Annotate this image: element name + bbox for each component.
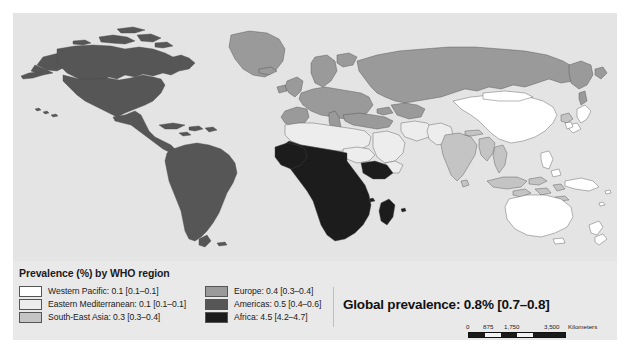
swatch-western-pacific — [19, 286, 42, 297]
scale-tick-875: 875 — [483, 323, 493, 330]
swatch-europe — [205, 286, 228, 297]
scale-segment-4 — [517, 333, 533, 337]
scale-tick-3500: 3,500 — [544, 323, 559, 330]
swatch-south-east-asia — [19, 312, 42, 323]
figure-root: Prevalence (%) by WHO region Western Pac… — [0, 0, 629, 352]
legend-divider — [333, 287, 334, 327]
scale-units-label: Kilometers — [568, 323, 597, 330]
scale-segment-3 — [501, 333, 517, 337]
legend-column-right: Europe: 0.4 [0.3–0.4] Americas: 0.5 [0.4… — [205, 285, 321, 324]
scale-bar: 0 875 1,750 3,500 Kilometers — [466, 323, 606, 332]
legend-item-europe[interactable]: Europe: 0.4 [0.3–0.4] — [205, 285, 321, 297]
legend-column-left: Western Pacific: 0.1 [0.1–0.1] Eastern M… — [19, 285, 186, 324]
map-figure-panel: Prevalence (%) by WHO region Western Pac… — [13, 13, 617, 340]
legend-label-south-east-asia: South-East Asia: 0.3 [0.3–0.4] — [48, 312, 160, 322]
scale-tick-1750: 1,750 — [504, 323, 519, 330]
legend-label-western-pacific: Western Pacific: 0.1 [0.1–0.1] — [48, 286, 159, 296]
legend-item-americas[interactable]: Americas: 0.5 [0.4–0.6] — [205, 298, 321, 310]
swatch-africa — [205, 312, 228, 323]
map-legend: Prevalence (%) by WHO region Western Pac… — [13, 261, 617, 340]
swatch-americas — [205, 299, 228, 310]
legend-label-americas: Americas: 0.5 [0.4–0.6] — [234, 299, 321, 309]
scale-bar-segments — [468, 332, 566, 338]
world-map-area[interactable] — [13, 13, 617, 261]
world-map-svg[interactable] — [13, 13, 617, 261]
legend-title: Prevalence (%) by WHO region — [19, 267, 170, 279]
legend-item-africa[interactable]: Africa: 4.5 [4.2–4.7] — [205, 311, 321, 323]
legend-label-eastern-mediterranean: Eastern Mediterranean: 0.1 [0.1–0.1] — [48, 299, 186, 309]
swatch-eastern-mediterranean — [19, 299, 42, 310]
scale-segment-5 — [533, 333, 549, 337]
scale-segment-2 — [485, 333, 501, 337]
scale-segment-6 — [549, 333, 565, 337]
scale-tick-0: 0 — [466, 323, 469, 330]
global-prevalence-text: Global prevalence: 0.8% [0.7–0.8] — [343, 297, 550, 312]
legend-item-western-pacific[interactable]: Western Pacific: 0.1 [0.1–0.1] — [19, 285, 186, 297]
legend-label-europe: Europe: 0.4 [0.3–0.4] — [234, 286, 313, 296]
legend-item-south-east-asia[interactable]: South-East Asia: 0.3 [0.3–0.4] — [19, 311, 186, 323]
legend-item-eastern-mediterranean[interactable]: Eastern Mediterranean: 0.1 [0.1–0.1] — [19, 298, 186, 310]
scale-segment-1 — [469, 333, 485, 337]
scale-bar-labels: 0 875 1,750 3,500 Kilometers — [466, 323, 606, 332]
legend-label-africa: Africa: 4.5 [4.2–4.7] — [234, 312, 307, 322]
